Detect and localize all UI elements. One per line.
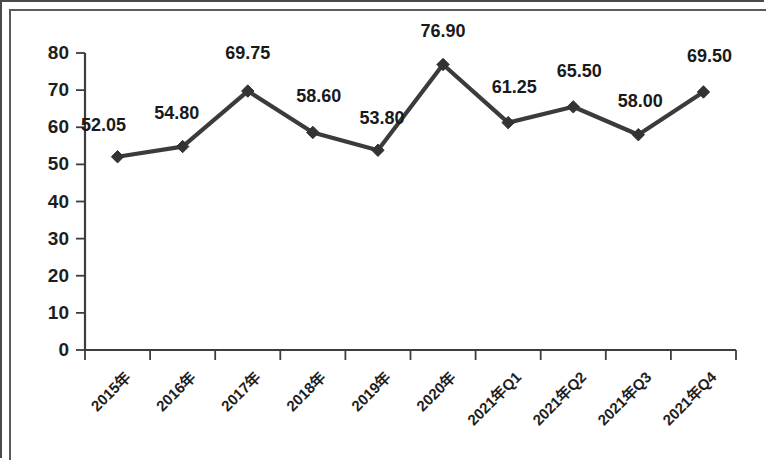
x-tick-label: 2018年 [283, 368, 329, 414]
y-tick-label: 10 [48, 302, 69, 323]
data-marker [567, 101, 579, 113]
y-tick-label: 60 [48, 116, 69, 137]
x-tick-label: 2020年 [413, 368, 459, 414]
data-point-label: 53.80 [359, 108, 404, 128]
x-tick-label: 2021年Q2 [529, 368, 589, 428]
x-axis-labels: 2015年2016年2017年2018年2019年2020年2021年Q1202… [87, 368, 720, 429]
x-tick-label: 2021年Q4 [659, 368, 720, 429]
data-point-label: 69.50 [687, 46, 732, 66]
x-tick-label: 2017年 [218, 368, 264, 414]
y-tick-label: 40 [48, 191, 69, 212]
data-point-label: 58.60 [296, 86, 341, 106]
x-tick-label: 2015年 [87, 368, 133, 414]
y-axis-ticks: 01020304050607080 [48, 42, 85, 360]
data-point-label: 69.75 [225, 43, 270, 63]
y-tick-label: 50 [48, 153, 69, 174]
data-point-label: 58.00 [618, 91, 663, 111]
y-tick-label: 70 [48, 79, 69, 100]
data-point-label: 52.05 [81, 115, 126, 135]
y-tick-label: 0 [58, 339, 69, 360]
data-point-label: 61.25 [492, 77, 537, 97]
y-tick-label: 30 [48, 228, 69, 249]
y-tick-label: 20 [48, 265, 69, 286]
x-tick-label: 2016年 [153, 368, 199, 414]
x-tick-label: 2021年Q3 [594, 368, 654, 428]
data-line [118, 65, 704, 157]
data-point-label: 65.50 [557, 61, 602, 81]
x-axis-ticks [85, 350, 736, 360]
x-tick-label: 2021年Q1 [464, 368, 524, 428]
y-tick-label: 80 [48, 42, 69, 63]
x-tick-label: 2019年 [348, 368, 394, 414]
data-marker [111, 151, 123, 163]
data-point-labels: 52.0554.8069.7558.6053.8076.9061.2565.50… [81, 21, 732, 135]
data-point-label: 76.90 [421, 21, 466, 41]
data-point-label: 54.80 [154, 103, 199, 123]
